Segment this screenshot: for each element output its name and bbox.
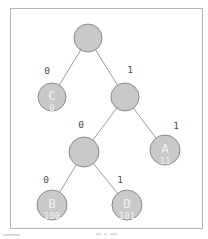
caption-remnant xyxy=(3,234,117,236)
node-root xyxy=(74,24,102,52)
node-internal-mid xyxy=(69,137,99,167)
edge-label-root-to-c: 0 xyxy=(44,65,50,76)
edge-label-internal-right-to-internal-mid: 0 xyxy=(78,119,84,130)
figure-frame xyxy=(11,9,203,229)
edge-label-root-to-internal-right: 1 xyxy=(127,64,133,75)
node-internal-right xyxy=(111,83,139,111)
edge-label-internal-mid-to-d: 1 xyxy=(117,174,123,185)
edge-label-internal-right-to-a: 1 xyxy=(173,120,179,131)
node-c-label: C xyxy=(48,88,56,103)
node-a-code: 11 xyxy=(160,156,171,166)
huffman-tree-figure: C A B D 0 11 100 101 0 1 0 1 0 1 xyxy=(0,0,208,239)
node-b-code: 100 xyxy=(44,211,60,221)
node-d-label: D xyxy=(123,196,131,211)
tree-diagram-canvas: C A B D 0 11 100 101 0 1 0 1 0 1 xyxy=(0,0,208,239)
node-c-code: 0 xyxy=(49,103,54,113)
node-b-label: B xyxy=(48,196,56,211)
edge-label-internal-mid-to-b: 0 xyxy=(43,174,49,185)
node-a-label: A xyxy=(161,141,169,156)
node-d-code: 101 xyxy=(119,211,135,221)
